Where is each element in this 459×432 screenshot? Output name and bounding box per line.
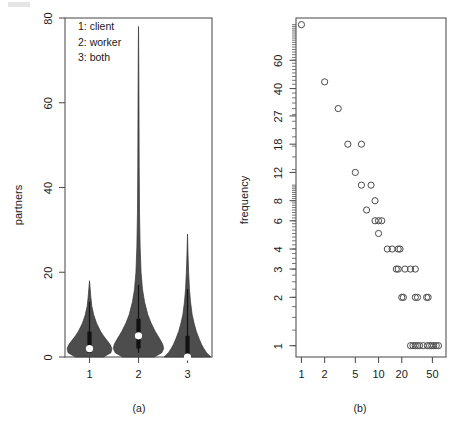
panel-a-x-tick-label-1: 1 <box>86 368 92 380</box>
panel-b-caption: (b) <box>354 402 367 414</box>
legend-entry-1: 1: client <box>78 20 114 32</box>
panel-a-svg: 020406080123 1: client2: worker3: both p… <box>0 0 230 432</box>
panel-a-x-tick-label-3: 3 <box>184 368 190 380</box>
panel-a-y-tick-label-40: 40 <box>42 182 54 194</box>
scatter-points-group <box>298 22 441 349</box>
scatter-point <box>358 182 364 188</box>
panel-a-violin-plot: 020406080123 1: client2: worker3: both p… <box>0 0 230 432</box>
panel-a-y-axis-title: partners <box>12 184 24 225</box>
panel-b-axes: 1234681218274060125102050 <box>272 18 446 380</box>
scatter-point <box>298 22 304 28</box>
legend-entry-3: 3: both <box>78 51 110 63</box>
panel-b-y-tick-label-40: 40 <box>272 83 284 95</box>
scatter-point <box>375 230 381 236</box>
panel-a-y-tick-label-60: 60 <box>42 97 54 109</box>
panel-b-y-tick-label-3: 3 <box>272 267 284 273</box>
panel-b-x-tick-label-20: 20 <box>396 368 408 380</box>
panel-b-x-tick-label-5: 5 <box>352 368 358 380</box>
panel-b-x-tick-label-50: 50 <box>426 368 438 380</box>
panel-b-y-tick-label-12: 12 <box>272 167 284 179</box>
panel-b-x-tick-label-10: 10 <box>372 368 384 380</box>
panel-b-y-tick-label-6: 6 <box>272 218 284 224</box>
panel-a-x-tick-label-2: 2 <box>135 368 141 380</box>
panel-b-scatter-plot: 1234681218274060125102050 frequency (b) <box>230 0 459 432</box>
panel-a-y-tick-label-80: 80 <box>42 12 54 24</box>
panel-b-y-tick-label-60: 60 <box>272 55 284 67</box>
scan-artifact <box>8 2 30 7</box>
scatter-point <box>372 198 378 204</box>
scatter-point <box>335 105 341 111</box>
scatter-point <box>322 79 328 85</box>
scatter-point <box>358 141 364 147</box>
violin-median-1 <box>86 345 93 352</box>
panel-b-frame <box>296 18 446 357</box>
violin-group <box>67 26 211 360</box>
violin-median-3 <box>184 353 191 360</box>
panel-b-x-tick-label-2: 2 <box>322 368 328 380</box>
panel-b-y-tick-label-27: 27 <box>272 110 284 122</box>
scatter-point <box>352 169 358 175</box>
violin-median-2 <box>135 332 142 339</box>
panel-a-y-tick-label-0: 0 <box>42 354 54 360</box>
panel-a-caption: (a) <box>133 402 146 414</box>
panel-b-y-tick-label-4: 4 <box>272 246 284 252</box>
scatter-point <box>363 207 369 213</box>
panel-b-svg: 1234681218274060125102050 frequency (b) <box>230 0 459 432</box>
panel-b-x-tick-label-1: 1 <box>298 368 304 380</box>
panel-b-y-tick-label-2: 2 <box>272 295 284 301</box>
scatter-point <box>368 182 374 188</box>
panel-b-y-tick-label-18: 18 <box>272 139 284 151</box>
panel-b-y-tick-label-1: 1 <box>272 343 284 349</box>
panel-b-y-axis-title: frequency <box>238 175 250 224</box>
panel-a-legend: 1: client2: worker3: both <box>78 20 122 63</box>
scatter-point <box>345 141 351 147</box>
legend-entry-2: 2: worker <box>78 36 122 48</box>
panel-b-y-tick-label-8: 8 <box>272 198 284 204</box>
panel-a-y-tick-label-20: 20 <box>42 267 54 279</box>
